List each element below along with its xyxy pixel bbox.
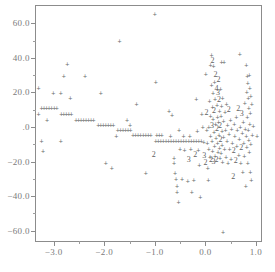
data-point: +: [68, 95, 72, 102]
data-point: +: [55, 104, 59, 111]
data-point: +: [99, 90, 103, 97]
data-point: +: [248, 168, 252, 175]
data-point: +: [234, 113, 238, 120]
data-point: +: [235, 142, 239, 149]
data-point: +: [40, 138, 44, 145]
data-point: +: [222, 59, 226, 66]
data-point: +: [230, 139, 234, 146]
data-point: +: [225, 137, 229, 144]
data-point: +: [238, 50, 242, 57]
data-point: +: [204, 70, 208, 77]
data-point: +: [59, 90, 63, 97]
x-tick: [155, 241, 156, 246]
data-point: +: [110, 165, 114, 172]
y-tick-label: 20.0: [13, 87, 30, 97]
data-point: +: [229, 156, 233, 163]
data-point: +: [255, 133, 259, 140]
data-point: +: [247, 72, 251, 79]
data-point: +: [249, 141, 253, 148]
data-point: +: [154, 79, 158, 86]
y-tick: [31, 127, 36, 128]
data-point: +: [62, 72, 66, 79]
x-minor-tick: [79, 241, 80, 244]
y-minor-tick: [33, 75, 36, 76]
data-point: +: [92, 116, 96, 123]
data-point: +: [244, 182, 248, 189]
data-point: +: [83, 73, 87, 80]
y-tick: [31, 231, 36, 232]
data-point: +: [186, 177, 190, 184]
data-point: +: [206, 176, 210, 183]
y-minor-tick: [33, 213, 36, 214]
scatter-plot-figure: +++++++++++++++++++++++2++++++++++++++++…: [0, 0, 275, 272]
x-tick-label: 0.0: [199, 247, 211, 257]
plot-area: +++++++++++++++++++++++2++++++++++++++++…: [36, 6, 261, 241]
y-tick-label: .0: [22, 122, 30, 132]
x-minor-tick: [180, 241, 181, 244]
data-point: +: [41, 148, 45, 155]
y-minor-tick: [33, 41, 36, 42]
data-point-overplot: 3: [240, 110, 244, 118]
data-point: +: [51, 90, 55, 97]
data-point-overplot: 2: [217, 76, 221, 84]
data-point: +: [246, 159, 250, 166]
data-point: +: [250, 101, 254, 108]
data-point: +: [36, 85, 40, 92]
data-point: +: [221, 229, 225, 236]
x-tick: [205, 241, 206, 246]
data-point: +: [189, 146, 193, 153]
data-point: +: [183, 147, 187, 154]
data-point: +: [197, 161, 201, 168]
data-point: +: [111, 121, 115, 128]
x-tick: [256, 241, 257, 246]
data-point: +: [198, 193, 202, 200]
y-tick-label: 60.0: [13, 18, 30, 28]
data-point: +: [45, 117, 49, 124]
data-point: +: [175, 188, 179, 195]
data-point: +: [249, 92, 253, 99]
y-minor-tick: [33, 144, 36, 145]
data-point: +: [248, 110, 252, 117]
data-point: +: [135, 101, 139, 108]
data-point: +: [233, 133, 237, 140]
data-point: +: [200, 110, 204, 117]
x-tick-label: 1.0: [250, 247, 262, 257]
data-point: +: [178, 146, 182, 153]
y-tick-label: −40.0: [7, 191, 30, 201]
data-point-overplot: 2: [231, 173, 235, 181]
data-point: +: [239, 160, 243, 167]
data-point: +: [250, 131, 254, 138]
data-point-overplot: 3: [187, 156, 191, 164]
y-tick: [31, 162, 36, 163]
data-point: +: [195, 127, 199, 134]
data-point: +: [211, 63, 215, 70]
data-point: +: [192, 176, 196, 183]
data-point: +: [249, 176, 253, 183]
data-point: +: [160, 132, 164, 139]
y-tick-label: 40.0: [13, 53, 30, 63]
x-minor-tick: [130, 241, 131, 244]
data-point: +: [251, 123, 255, 130]
data-point: +: [59, 138, 63, 145]
x-tick: [104, 241, 105, 246]
data-point: +: [219, 85, 223, 92]
y-minor-tick: [33, 110, 36, 111]
y-tick: [31, 23, 36, 24]
data-point: +: [149, 131, 153, 138]
data-point: +: [247, 149, 251, 156]
plot-frame: +++++++++++++++++++++++2++++++++++++++++…: [35, 5, 262, 242]
x-minor-tick: [231, 241, 232, 244]
data-point: +: [241, 168, 245, 175]
y-tick: [31, 58, 36, 59]
y-tick-label: −20.0: [7, 157, 30, 167]
data-point: +: [104, 159, 108, 166]
data-point-overplot: 2: [152, 151, 156, 159]
y-tick-label: −60.0: [7, 226, 30, 236]
data-point: +: [117, 37, 121, 44]
data-point: +: [177, 199, 181, 206]
data-point: +: [153, 11, 157, 18]
data-point: +: [69, 110, 73, 117]
data-point: +: [172, 159, 176, 166]
x-tick-label: −3.0: [45, 247, 63, 257]
data-point: +: [194, 95, 198, 102]
